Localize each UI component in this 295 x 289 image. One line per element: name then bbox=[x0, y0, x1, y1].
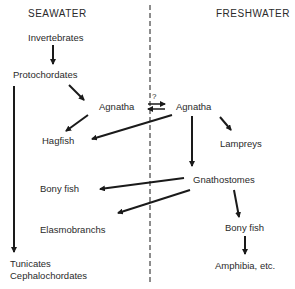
node-protochordates: Protochordates bbox=[13, 69, 77, 80]
node-agnatha-freshwater: Agnatha bbox=[176, 101, 211, 112]
node-bony-fish-freshwater: Bony fish bbox=[225, 222, 264, 233]
node-gnathostomes: Gnathostomes bbox=[193, 174, 255, 185]
node-lampreys: Lampreys bbox=[220, 138, 262, 149]
node-hagfish: Hagfish bbox=[42, 135, 74, 146]
node-invertebrates: Invertebrates bbox=[28, 32, 83, 43]
node-amphibia: Amphibia, etc. bbox=[215, 260, 275, 271]
seawater-header: SEAWATER bbox=[28, 8, 87, 19]
node-elasmobranchs: Elasmobranchs bbox=[40, 224, 105, 235]
node-agnatha-seawater: Agnatha bbox=[99, 101, 134, 112]
node-cephalochordates: Cephalochordates bbox=[10, 270, 87, 281]
node-tunicates: Tunicates bbox=[10, 258, 51, 269]
freshwater-header: FRESHWATER bbox=[216, 8, 290, 19]
node-bony-fish-seawater: Bony fish bbox=[40, 183, 79, 194]
question-mark: ? bbox=[152, 91, 156, 102]
